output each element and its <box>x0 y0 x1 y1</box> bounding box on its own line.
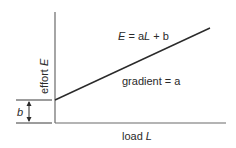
diagram-canvas: b effort E E = aL + b gradient = a load … <box>0 0 236 148</box>
arrow-up-icon <box>27 101 32 106</box>
intercept-label: b <box>17 106 23 118</box>
equation-label: E = aL + b <box>118 30 169 42</box>
x-axis-label: load L <box>122 130 152 142</box>
y-axis-label-text: effort <box>38 66 50 94</box>
arrow-down-icon <box>27 117 32 122</box>
y-axis-label-var: E <box>38 58 50 66</box>
y-axis-label: effort E <box>38 58 50 94</box>
gradient-label: gradient = a <box>122 75 181 87</box>
effort-load-diagram: b effort E E = aL + b gradient = a load … <box>0 0 236 148</box>
